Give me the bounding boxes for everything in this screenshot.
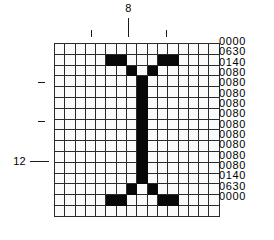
- pixel-cell-off[interactable]: [199, 173, 209, 184]
- pixel-cell-off[interactable]: [178, 108, 188, 119]
- pixel-cell-off[interactable]: [157, 65, 167, 76]
- pixel-cell-off[interactable]: [55, 119, 65, 130]
- pixel-cell-off[interactable]: [106, 119, 116, 130]
- pixel-cell-off[interactable]: [106, 65, 116, 76]
- pixel-cell-off[interactable]: [127, 87, 137, 98]
- pixel-cell-off[interactable]: [157, 151, 167, 162]
- pixel-cell-off[interactable]: [116, 65, 126, 76]
- pixel-cell-off[interactable]: [209, 195, 219, 206]
- pixel-cell-on[interactable]: [157, 54, 167, 65]
- pixel-cell-off[interactable]: [55, 130, 65, 141]
- pixel-cell-off[interactable]: [199, 141, 209, 152]
- pixel-cell-off[interactable]: [178, 97, 188, 108]
- pixel-cell-off[interactable]: [147, 108, 157, 119]
- pixel-cell-off[interactable]: [116, 44, 126, 55]
- pixel-cell-off[interactable]: [85, 151, 95, 162]
- pixel-cell-off[interactable]: [55, 195, 65, 206]
- pixel-cell-off[interactable]: [157, 76, 167, 87]
- pixel-cell-off[interactable]: [65, 141, 75, 152]
- pixel-cell-off[interactable]: [85, 130, 95, 141]
- pixel-cell-off[interactable]: [157, 162, 167, 173]
- pixel-cell-off[interactable]: [147, 195, 157, 206]
- pixel-cell-off[interactable]: [75, 97, 85, 108]
- pixel-cell-off[interactable]: [209, 119, 219, 130]
- pixel-cell-off[interactable]: [188, 151, 198, 162]
- pixel-cell-off[interactable]: [65, 162, 75, 173]
- pixel-cell-on[interactable]: [137, 119, 147, 130]
- pixel-cell-off[interactable]: [96, 54, 106, 65]
- pixel-cell-off[interactable]: [75, 141, 85, 152]
- pixel-cell-off[interactable]: [55, 151, 65, 162]
- pixel-cell-on[interactable]: [147, 65, 157, 76]
- pixel-cell-off[interactable]: [75, 184, 85, 195]
- pixel-cell-off[interactable]: [157, 205, 167, 216]
- pixel-cell-off[interactable]: [168, 151, 178, 162]
- pixel-cell-off[interactable]: [75, 65, 85, 76]
- pixel-cell-off[interactable]: [116, 108, 126, 119]
- pixel-cell-off[interactable]: [127, 97, 137, 108]
- pixel-cell-off[interactable]: [75, 108, 85, 119]
- pixel-cell-off[interactable]: [127, 54, 137, 65]
- pixel-cell-off[interactable]: [188, 184, 198, 195]
- pixel-cell-off[interactable]: [96, 119, 106, 130]
- pixel-cell-off[interactable]: [178, 87, 188, 98]
- pixel-cell-off[interactable]: [96, 76, 106, 87]
- pixel-cell-off[interactable]: [188, 173, 198, 184]
- pixel-cell-off[interactable]: [137, 65, 147, 76]
- pixel-cell-off[interactable]: [85, 87, 95, 98]
- pixel-cell-on[interactable]: [116, 195, 126, 206]
- pixel-cell-off[interactable]: [147, 130, 157, 141]
- pixel-cell-off[interactable]: [157, 141, 167, 152]
- pixel-cell-off[interactable]: [65, 65, 75, 76]
- pixel-cell-off[interactable]: [116, 141, 126, 152]
- pixel-cell-off[interactable]: [199, 130, 209, 141]
- pixel-cell-off[interactable]: [116, 87, 126, 98]
- pixel-cell-off[interactable]: [188, 97, 198, 108]
- pixel-cell-off[interactable]: [209, 76, 219, 87]
- pixel-cell-off[interactable]: [209, 87, 219, 98]
- pixel-cell-off[interactable]: [188, 65, 198, 76]
- pixel-cell-off[interactable]: [127, 173, 137, 184]
- pixel-cell-off[interactable]: [116, 119, 126, 130]
- pixel-cell-off[interactable]: [65, 184, 75, 195]
- pixel-cell-off[interactable]: [96, 44, 106, 55]
- pixel-cell-off[interactable]: [85, 173, 95, 184]
- pixel-cell-off[interactable]: [85, 141, 95, 152]
- pixel-cell-off[interactable]: [106, 141, 116, 152]
- pixel-cell-off[interactable]: [96, 65, 106, 76]
- pixel-cell-off[interactable]: [55, 184, 65, 195]
- pixel-cell-off[interactable]: [65, 119, 75, 130]
- pixel-cell-on[interactable]: [137, 76, 147, 87]
- pixel-cell-off[interactable]: [209, 184, 219, 195]
- pixel-cell-off[interactable]: [116, 205, 126, 216]
- pixel-cell-off[interactable]: [106, 97, 116, 108]
- pixel-cell-off[interactable]: [106, 205, 116, 216]
- pixel-cell-off[interactable]: [55, 205, 65, 216]
- pixel-cell-off[interactable]: [106, 130, 116, 141]
- pixel-cell-off[interactable]: [168, 130, 178, 141]
- pixel-cell-off[interactable]: [199, 54, 209, 65]
- pixel-cell-off[interactable]: [55, 162, 65, 173]
- pixel-cell-off[interactable]: [96, 173, 106, 184]
- pixel-cell-off[interactable]: [188, 195, 198, 206]
- pixel-cell-off[interactable]: [209, 162, 219, 173]
- pixel-cell-on[interactable]: [137, 108, 147, 119]
- pixel-cell-off[interactable]: [178, 65, 188, 76]
- pixel-cell-off[interactable]: [199, 184, 209, 195]
- pixel-cell-off[interactable]: [147, 119, 157, 130]
- pixel-cell-off[interactable]: [127, 108, 137, 119]
- pixel-cell-off[interactable]: [116, 76, 126, 87]
- pixel-cell-off[interactable]: [85, 54, 95, 65]
- pixel-cell-off[interactable]: [96, 195, 106, 206]
- pixel-cell-off[interactable]: [116, 173, 126, 184]
- pixel-cell-off[interactable]: [75, 76, 85, 87]
- pixel-cell-off[interactable]: [137, 195, 147, 206]
- pixel-cell-off[interactable]: [178, 44, 188, 55]
- pixel-cell-off[interactable]: [209, 97, 219, 108]
- pixel-cell-off[interactable]: [199, 195, 209, 206]
- pixel-cell-off[interactable]: [65, 173, 75, 184]
- pixel-cell-off[interactable]: [106, 173, 116, 184]
- pixel-cell-off[interactable]: [96, 151, 106, 162]
- pixel-cell-off[interactable]: [188, 162, 198, 173]
- pixel-cell-off[interactable]: [96, 184, 106, 195]
